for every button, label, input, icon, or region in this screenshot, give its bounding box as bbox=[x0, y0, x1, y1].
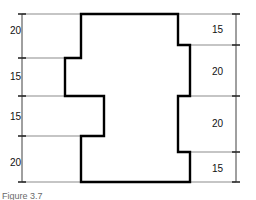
dimension-labels-right: 15 20 20 15 bbox=[212, 24, 224, 174]
stepped-polygon-outline bbox=[65, 14, 190, 182]
figure-canvas: 20 15 15 20 15 20 20 15 Figure 3.7 bbox=[0, 0, 256, 200]
dim-label-right-3: 20 bbox=[212, 118, 224, 129]
dimension-line-right bbox=[232, 14, 240, 182]
dim-label-left-2: 15 bbox=[10, 71, 22, 82]
dim-label-left-3: 15 bbox=[10, 111, 22, 122]
dim-label-left-4: 20 bbox=[10, 157, 22, 168]
dim-label-right-2: 20 bbox=[212, 66, 224, 77]
dim-label-right-1: 15 bbox=[212, 24, 224, 35]
technical-drawing: 20 15 15 20 15 20 20 15 Figure 3.7 bbox=[0, 0, 256, 200]
figure-caption: Figure 3.7 bbox=[2, 191, 43, 200]
dim-label-left-1: 20 bbox=[10, 25, 22, 36]
dim-label-right-4: 15 bbox=[212, 163, 224, 174]
